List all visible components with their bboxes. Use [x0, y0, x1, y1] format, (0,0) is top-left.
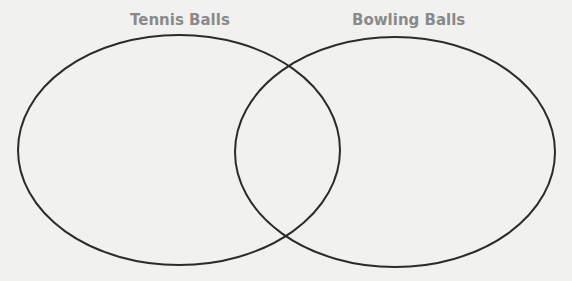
bowling-balls-circle — [235, 37, 555, 267]
venn-diagram — [0, 0, 572, 281]
tennis-balls-circle — [18, 35, 340, 265]
